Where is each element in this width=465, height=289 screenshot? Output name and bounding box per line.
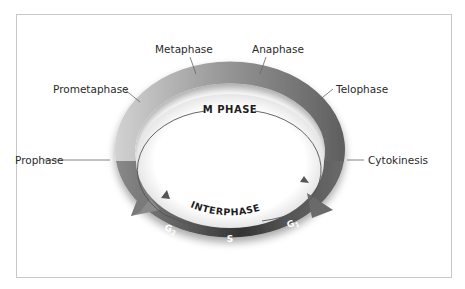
stage-label-prophase: Prophase [15, 154, 63, 166]
stage-label-cytokinesis: Cytokinesis [368, 154, 428, 166]
cell-cycle-diagram: M PHASE INTERPHASE G2 S G1 [0, 0, 465, 289]
stage-label-anaphase: Anaphase [252, 43, 304, 55]
m-phase-label: M PHASE [203, 104, 257, 115]
stage-label-prometaphase: Prometaphase [53, 83, 129, 95]
stage-label-telophase: Telophase [336, 83, 388, 95]
stage-label-metaphase: Metaphase [155, 43, 213, 55]
s-label: S [227, 234, 233, 244]
